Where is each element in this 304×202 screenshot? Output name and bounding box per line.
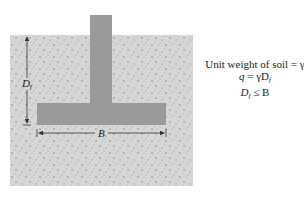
depth-constraint: Df ≤ B [196, 86, 304, 102]
bearing-equation: q = γDf [196, 70, 304, 86]
unit-weight-text: Unit weight of soil = γ [196, 58, 304, 70]
width-label: B [98, 127, 105, 140]
depth-label: Df [22, 77, 32, 94]
footing-slab [37, 103, 166, 125]
equations-block: Unit weight of soil = γ q = γDf Df ≤ B [196, 58, 304, 102]
footing-column [90, 15, 112, 105]
